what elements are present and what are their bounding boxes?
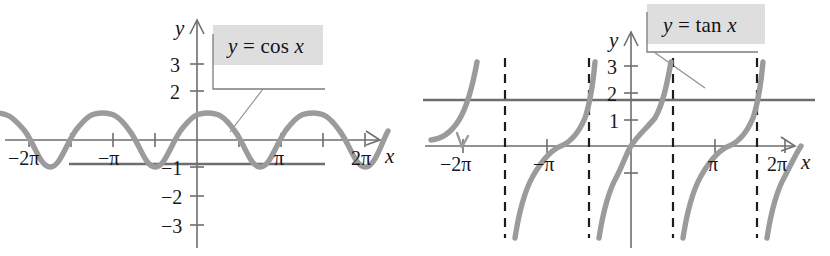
tan-xtick-label-2pi: 2π — [767, 154, 787, 174]
tan-callout-leader-line — [654, 52, 705, 88]
cos-xtick-label-2pi: 2π — [351, 148, 371, 168]
tan-branch-2 — [515, 62, 595, 238]
tan-xtick-label-neg2pi: −2π — [440, 154, 471, 174]
cos-graph-panel: y x −2π −π π 2π 3 2 −1 −2 −3 y = cos x — [0, 0, 415, 256]
tan-callout-function: tan — [695, 13, 721, 37]
trig-graphs-figure: y x −2π −π π 2π 3 2 −1 −2 −3 y = cos x — [0, 0, 830, 256]
cos-xtick-label-neg2pi: −2π — [8, 148, 39, 168]
cos-callout-equals: = — [243, 34, 255, 58]
cos-ytick-label-neg1: −1 — [161, 158, 182, 178]
cos-callout-leader-line — [230, 89, 263, 132]
cos-ytick-label-neg2: −2 — [161, 187, 182, 207]
tan-graph-panel: y x −2π −π π 2π 3 2 1 y = tan x — [415, 0, 830, 256]
tan-x-axis-arrowhead — [781, 137, 795, 151]
tan-callout-lhs: y — [663, 13, 673, 37]
cos-callout-label: y = cos x — [228, 34, 304, 59]
tan-callout-label: y = tan x — [663, 13, 737, 38]
tan-y-axis-label: y — [609, 30, 618, 51]
tan-branch-4 — [683, 62, 763, 238]
tan-xtick-label-negpi: −π — [533, 154, 554, 174]
cos-callout-function: cos — [260, 34, 289, 58]
cos-ytick-label-2: 2 — [170, 82, 180, 102]
cos-xtick-label-pi: π — [274, 148, 284, 168]
cos-graph-svg — [0, 0, 415, 256]
cos-callout-arg: x — [295, 34, 305, 58]
tan-x-axis-label: x — [801, 152, 810, 173]
tan-callout-equals: = — [678, 13, 690, 37]
cos-callout-lhs: y — [228, 34, 238, 58]
cos-ytick-label-3: 3 — [170, 55, 180, 75]
cos-x-axis-arrowhead — [366, 131, 380, 145]
tan-graph-svg — [415, 0, 830, 256]
cos-y-axis-label: y — [175, 18, 184, 39]
tan-ytick-label-3: 3 — [607, 57, 617, 77]
tan-ytick-label-1: 1 — [609, 111, 619, 131]
tan-xtick-label-pi: π — [708, 154, 718, 174]
cos-x-axis-label: x — [385, 146, 394, 167]
tan-ytick-label-2: 2 — [607, 84, 617, 104]
tan-callout-arg: x — [727, 13, 737, 37]
cos-xtick-label-negpi: −π — [98, 148, 119, 168]
cos-ytick-label-neg3: −3 — [161, 216, 182, 236]
